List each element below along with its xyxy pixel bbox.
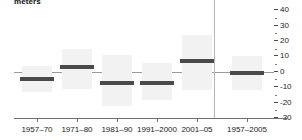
y-tick-mark xyxy=(274,9,278,10)
x-axis-tick xyxy=(157,118,158,122)
value-bar xyxy=(140,81,174,85)
y-tick-label: 30 xyxy=(280,21,289,30)
y-axis-minor-tick xyxy=(275,49,277,50)
x-tick-label: 2001–05 xyxy=(181,125,212,134)
y-axis-minor-tick xyxy=(275,79,277,80)
value-bar xyxy=(180,59,214,63)
x-axis-tick xyxy=(77,118,78,122)
y-axis-minor-tick xyxy=(275,95,277,96)
y-tick-label: -10 xyxy=(280,82,292,91)
y-axis: 403020100-10-20-30 xyxy=(274,0,302,140)
x-axis-tick xyxy=(247,118,248,122)
y-tick-mark xyxy=(274,71,278,72)
value-bar xyxy=(60,65,94,69)
y-axis-minor-tick xyxy=(275,18,277,19)
y-axis-minor-tick xyxy=(275,110,277,111)
plot-area xyxy=(14,4,274,118)
y-axis-minor-tick xyxy=(275,33,277,34)
x-axis-tick xyxy=(197,118,198,122)
y-tick-label: 40 xyxy=(280,5,289,14)
y-tick-label: 0 xyxy=(280,67,284,76)
x-tick-label: 1957–70 xyxy=(21,125,52,134)
x-tick-label: 1981–90 xyxy=(101,125,132,134)
y-tick-mark xyxy=(274,25,278,26)
y-tick-label: 20 xyxy=(280,36,289,45)
y-axis-minor-tick xyxy=(275,64,277,65)
value-bar xyxy=(20,77,54,81)
y-tick-label: 10 xyxy=(280,51,289,60)
value-bar xyxy=(100,81,134,85)
x-axis-tick xyxy=(37,118,38,122)
y-tick-mark xyxy=(274,55,278,56)
y-tick-mark xyxy=(274,40,278,41)
y-tick-mark xyxy=(274,102,278,103)
chart-container: meters 403020100-10-20-30 1957–701971–80… xyxy=(0,0,302,140)
group-separator-line xyxy=(214,0,215,118)
y-tick-mark xyxy=(274,86,278,87)
x-axis-tick xyxy=(117,118,118,122)
x-tick-label: 1991–2000 xyxy=(137,125,177,134)
x-tick-label: 1971–80 xyxy=(61,125,92,134)
y-tick-label: -20 xyxy=(280,98,292,107)
x-tick-label: 1957–2005 xyxy=(227,125,267,134)
value-bar xyxy=(230,71,264,75)
